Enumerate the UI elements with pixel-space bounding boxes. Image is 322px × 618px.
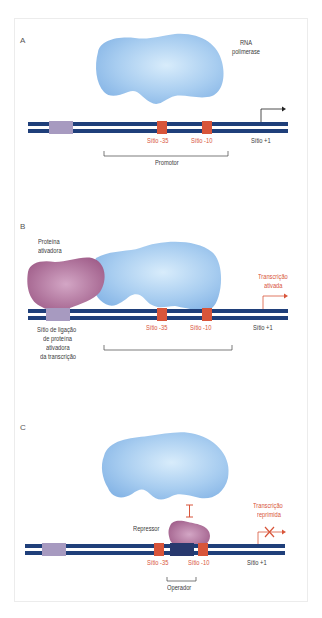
binding-site (42, 543, 66, 556)
site-10-marker (202, 308, 212, 321)
rna-polymerase-shape (102, 432, 229, 499)
transcription-activated-arrow (263, 296, 284, 309)
panel-letter-c: C (20, 423, 26, 432)
rna-polymerase-shape (92, 242, 221, 310)
diagram-graphics (0, 0, 322, 618)
site-35-marker (157, 121, 167, 134)
binding-site-label-line4: da transcrição (40, 353, 76, 361)
activator-protein-label-line2: ativadora (38, 247, 62, 255)
operator-bracket (167, 577, 196, 581)
transcription-repressed-label-line1: Transcrição (253, 502, 283, 510)
rna-polymerase-shape (96, 34, 224, 104)
site-10-label: Sítio -10 (190, 324, 211, 332)
site-plus1-label: Sítio +1 (251, 137, 271, 145)
transcription-repressed-label-line2: reprimida (257, 511, 281, 519)
transcription-start-arrow (261, 109, 282, 122)
site-10-label: Sítio -10 (188, 559, 209, 567)
site-35-marker (154, 543, 164, 556)
site-10-label: Sítio -10 (191, 137, 212, 145)
binding-site (49, 121, 73, 134)
rna-polymerase-label-line1: RNA (226, 39, 265, 47)
inhibition-symbol (186, 505, 193, 517)
binding-site (46, 308, 70, 321)
site-35-label: Sítio -35 (147, 137, 168, 145)
site-10-marker (202, 121, 212, 134)
site-plus1-label: Sítio +1 (247, 559, 267, 567)
transcription-repressed-arrow (258, 532, 282, 544)
site-35-marker (157, 308, 167, 321)
promotor-bracket (104, 345, 232, 350)
panel-letter-a: A (20, 36, 25, 45)
site-35-label: Sítio -35 (146, 324, 167, 332)
promotor-bracket (104, 151, 228, 156)
site-10-marker (198, 543, 208, 556)
operator-label: Operador (167, 584, 191, 592)
activator-protein-shape (27, 258, 104, 311)
site-plus1-label: Sítio +1 (253, 324, 273, 332)
promotor-label: Promotor (155, 159, 179, 167)
binding-site-label-line1: Sítio de ligação (37, 326, 76, 334)
activator-protein-label-line1: Proteína (38, 238, 60, 246)
transcription-activated-label-line1: Transcrição (258, 273, 288, 281)
site-35-label: Sítio -35 (147, 559, 168, 567)
transcription-activated-label-line2: ativada (264, 282, 283, 290)
panel-letter-b: B (20, 222, 25, 231)
binding-site-label-line3: ativadora (46, 344, 70, 352)
repressor-label: Repressor (133, 525, 159, 533)
operator-site (170, 543, 194, 556)
rna-polymerase-label-line2: polimerase (226, 48, 265, 56)
binding-site-label-line2: de proteína (43, 335, 72, 343)
